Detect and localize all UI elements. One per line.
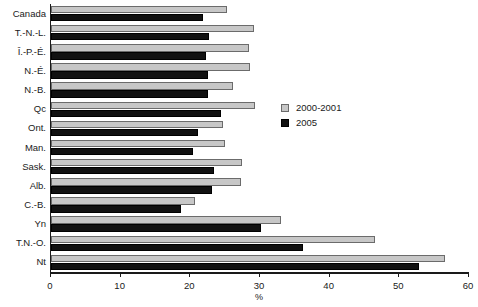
category-label: Yn [0, 219, 46, 229]
bar-series-2000-2001 [51, 25, 254, 32]
bar-series-2000-2001 [51, 178, 241, 185]
bar-series-2005 [51, 71, 208, 78]
bar-series-2000-2001 [51, 82, 233, 89]
chart-legend: 2000-2001 2005 [281, 100, 341, 130]
bar-series-2005 [51, 110, 221, 117]
x-tick-mark [120, 272, 121, 277]
x-tick-label: 10 [105, 280, 135, 291]
x-tick-mark [189, 272, 190, 277]
legend-label: 2000-2001 [296, 101, 341, 115]
bar-series-2005 [51, 205, 181, 212]
x-tick-label: 60 [453, 280, 478, 291]
bar-series-2000-2001 [51, 102, 255, 109]
bar-series-2000-2001 [51, 6, 227, 13]
bar-series-2005 [51, 167, 214, 174]
legend-swatch-icon [281, 104, 289, 112]
bar-series-2005 [51, 224, 261, 231]
bar-series-2000-2001 [51, 44, 249, 51]
bar-series-2005 [51, 263, 419, 270]
category-label: N.-É. [0, 66, 46, 76]
legend-swatch-icon [281, 119, 289, 127]
bar-series-2005 [51, 244, 303, 251]
bar-series-2000-2001 [51, 216, 281, 223]
x-tick-label: 30 [244, 280, 274, 291]
bar-series-2000-2001 [51, 63, 250, 70]
bar-series-2000-2001 [51, 236, 375, 243]
legend-item-2005: 2005 [281, 115, 341, 130]
category-label: Nt [0, 257, 46, 267]
x-axis-title: % [255, 292, 263, 302]
legend-item-2000-2001: 2000-2001 [281, 100, 341, 115]
category-label: T.-N.-L. [0, 28, 46, 38]
bar-chart: CanadaT.-N.-L.Î.-P.-É.N.-É.N.-B.QcOnt.Ma… [0, 0, 478, 307]
x-tick-mark [329, 272, 330, 277]
category-label: T.N.-O. [0, 238, 46, 248]
category-label: N.-B. [0, 85, 46, 95]
category-label: Sask. [0, 162, 46, 172]
bar-series-2005 [51, 52, 206, 59]
bar-series-2000-2001 [51, 140, 225, 147]
x-tick-label: 50 [383, 280, 413, 291]
x-tick-mark [259, 272, 260, 277]
bar-series-2000-2001 [51, 121, 223, 128]
bar-series-2005 [51, 148, 193, 155]
category-label: Ont. [0, 123, 46, 133]
x-tick-mark [468, 272, 469, 277]
category-axis-labels: CanadaT.-N.-L.Î.-P.-É.N.-É.N.-B.QcOnt.Ma… [0, 0, 46, 307]
category-label: C.-B. [0, 200, 46, 210]
legend-label: 2005 [296, 116, 317, 130]
bar-series-2000-2001 [51, 159, 242, 166]
x-tick-mark [50, 272, 51, 277]
plot-area [50, 4, 469, 272]
x-tick-label: 0 [35, 280, 65, 291]
bar-series-2005 [51, 90, 208, 97]
bar-series-2000-2001 [51, 255, 445, 262]
bar-series-2005 [51, 186, 212, 193]
bar-series-2005 [51, 33, 209, 40]
category-label: Qc [0, 104, 46, 114]
bar-series-2005 [51, 129, 198, 136]
category-label: Î.-P.-É. [0, 47, 46, 57]
bar-series-2005 [51, 14, 203, 21]
x-tick-mark [398, 272, 399, 277]
category-label: Alb. [0, 181, 46, 191]
x-tick-label: 40 [314, 280, 344, 291]
x-tick-label: 20 [174, 280, 204, 291]
category-label: Man. [0, 143, 46, 153]
bar-series-2000-2001 [51, 197, 195, 204]
category-label: Canada [0, 9, 46, 19]
